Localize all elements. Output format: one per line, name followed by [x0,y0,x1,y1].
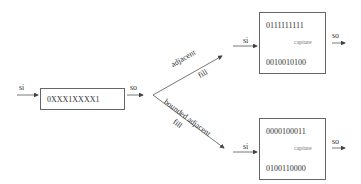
bounded-adjacent-result-box: 0000100011 capture 0100110000 [259,118,326,180]
adjacent-si-label: si [243,37,248,45]
bounded-adjacent-before-value: 0000100011 [266,128,306,136]
adjacent-after-value: 0010010100 [266,59,306,67]
bounded-adjacent-after-value: 0100110000 [266,165,306,173]
input-so-label: so [130,84,137,92]
input-pattern: 0XXX1XXXX1 [47,96,99,104]
adjacent-capture-label: capture [294,39,312,45]
input-si-label: si [19,84,24,92]
adjacent-so-label: so [332,32,339,40]
bounded-adjacent-so-label: so [332,138,339,146]
bounded-adjacent-si-label: si [243,143,248,151]
adjacent-result-box: 0111111111 capture 0010010100 [259,12,326,74]
input-pattern-box: 0XXX1XXXX1 [40,88,125,110]
bounded-adjacent-capture-label: capture [294,145,312,151]
adjacent-before-value: 0111111111 [266,22,304,30]
